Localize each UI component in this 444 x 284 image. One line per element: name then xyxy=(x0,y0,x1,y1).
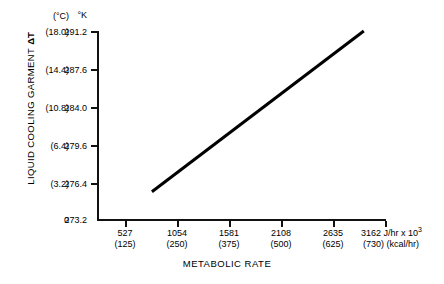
x-axis-tick xyxy=(229,221,231,227)
y-axis-title-text: LIQUID COOLING GARMENT xyxy=(25,48,36,185)
y-axis-title-delta: ΔT xyxy=(25,32,36,45)
x-axis-unit-exponent: 3 xyxy=(418,226,422,233)
x-axis-line xyxy=(97,219,386,221)
x-tick-label-last: 3162 J/hr x 103 (730) (kcal/hr) xyxy=(361,228,422,250)
x-tick-label: 1581 (375) xyxy=(204,228,254,250)
x-axis-title: METABOLIC RATE xyxy=(0,258,444,269)
y-tick-label-kelvin: 273.2 xyxy=(51,215,87,225)
x-axis-unit-primary: J/hr x 10 xyxy=(384,228,419,238)
y-axis-tick xyxy=(91,183,98,185)
y-tick-label-kelvin: 276.4 xyxy=(51,179,87,189)
x-tick-label: 527 (125) xyxy=(100,228,150,250)
y-axis-line xyxy=(97,31,99,221)
y-tick-label-kelvin: 291.2 xyxy=(51,27,87,37)
x-axis-tick xyxy=(333,221,335,227)
x-axis-unit-secondary: (kcal/hr) xyxy=(387,239,420,249)
y-axis-title: LIQUID COOLING GARMENT ΔT xyxy=(25,9,36,209)
y-axis-tick xyxy=(91,145,98,147)
x-tick-label: 2108 (500) xyxy=(256,228,306,250)
x-axis-tick xyxy=(177,221,179,227)
x-axis-tick xyxy=(125,221,127,227)
y-tick-label-kelvin: 284.0 xyxy=(51,103,87,113)
x-tick-last-secondary: (730) xyxy=(363,239,384,249)
y-axis-tick xyxy=(91,107,98,109)
x-tick-label: 2635 (625) xyxy=(308,228,358,250)
x-tick-label: 1054 (250) xyxy=(152,228,202,250)
chart-figure: (°C) °K (18.0) (14.4) (10.8) (6.4) (3.2)… xyxy=(0,0,444,284)
x-axis-tick xyxy=(281,221,283,227)
y-tick-label-kelvin: 279.6 xyxy=(51,141,87,151)
x-tick-last-value: 3162 xyxy=(361,228,381,238)
y-axis-tick xyxy=(91,31,98,33)
x-axis-tick xyxy=(385,221,387,227)
y-axis-unit-kelvin: °K xyxy=(51,10,87,20)
data-line-series-0 xyxy=(152,31,364,192)
y-tick-label-kelvin: 287.6 xyxy=(51,65,87,75)
y-axis-tick xyxy=(91,69,98,71)
